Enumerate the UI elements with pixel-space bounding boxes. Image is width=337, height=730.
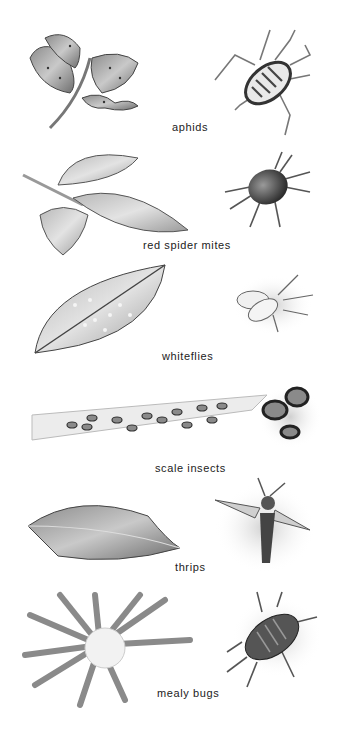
- pest-label: mealy bugs: [157, 687, 219, 699]
- spider-mite-illustration: [220, 147, 320, 227]
- pest-label: red spider mites: [143, 239, 231, 251]
- pest-label: thrips: [175, 561, 206, 573]
- pest-panel-scale-insects: scale insects: [0, 370, 337, 470]
- whitefly-illustration: [228, 270, 318, 340]
- aphid-illustration: [210, 25, 320, 135]
- pest-panel-thrips: thrips: [0, 470, 337, 580]
- mealy-bug-illustration: [222, 592, 322, 692]
- stem-with-scales-illustration: [32, 390, 272, 450]
- pest-panel-whiteflies: whiteflies: [0, 255, 337, 370]
- thrips-illustration: [210, 478, 320, 578]
- whitefly-leaf-illustration: [35, 265, 175, 355]
- pest-label: whiteflies: [162, 350, 213, 362]
- pest-panel-mealy-bugs: mealy bugs: [0, 580, 337, 730]
- pest-label: aphids: [172, 121, 208, 133]
- pest-panel-red-spider-mites: red spider mites: [0, 135, 337, 255]
- pest-panel-aphids: aphids: [0, 0, 337, 140]
- silvered-leaf-illustration: [28, 496, 188, 576]
- scale-insect-illustration: [255, 382, 325, 452]
